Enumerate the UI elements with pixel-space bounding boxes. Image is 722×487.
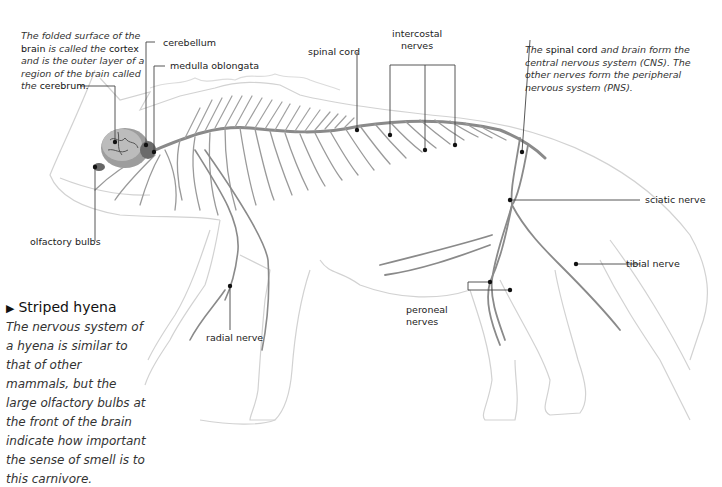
triangle-marker-icon: ▶ [6, 302, 14, 315]
note-line: The spinal cord and brain form the [525, 44, 691, 57]
note-text: The [525, 44, 546, 55]
caption-body: The nervous system of a hyena is similar… [6, 318, 146, 487]
term-cerebrum: cerebrum. [40, 80, 89, 91]
term-brain: brain [21, 43, 45, 54]
label-intercostal-nerves: intercostal nerves [392, 28, 442, 52]
note-text: the [21, 80, 40, 91]
label-line: nerves [392, 40, 442, 52]
brain [93, 128, 156, 171]
label-line: nerves [406, 316, 448, 328]
label-medulla-oblongata: medulla oblongata [170, 60, 259, 72]
nerves [95, 96, 620, 350]
note-line: The folded surface of the [21, 30, 144, 43]
note-cortex: The folded surface of the brain is calle… [21, 30, 144, 93]
note-line: other nerves form the peripheral [525, 69, 691, 82]
note-line: region of the brain called [21, 68, 144, 81]
label-cerebellum: cerebellum [163, 37, 216, 49]
label-olfactory-bulbs: olfactory bulbs [30, 236, 101, 248]
note-line: central nervous system (CNS). The [525, 57, 691, 70]
note-line: nervous system (PNS). [525, 82, 691, 95]
note-line: brain is called the cortex [21, 43, 144, 56]
label-sciatic-nerve: sciatic nerve [645, 194, 705, 206]
note-cns: The spinal cord and brain form the centr… [525, 44, 691, 94]
note-text: and brain form the [598, 44, 690, 55]
label-spinal-cord: spinal cord [308, 46, 360, 58]
term-cortex: cortex [109, 43, 139, 54]
note-line: and is the outer layer of a [21, 55, 144, 68]
label-tibial-nerve: tibial nerve [626, 258, 680, 270]
note-line: the cerebrum. [21, 80, 144, 93]
caption-title: ▶Striped hyena [6, 299, 117, 315]
caption-title-text: Striped hyena [18, 299, 116, 315]
term-spinal-cord: spinal cord [546, 44, 598, 55]
label-peroneal-nerves: peroneal nerves [406, 304, 448, 328]
label-radial-nerve: radial nerve [206, 332, 263, 344]
label-line: intercostal [392, 28, 442, 40]
label-line: peroneal [406, 304, 448, 316]
note-text: is called the [45, 43, 108, 54]
